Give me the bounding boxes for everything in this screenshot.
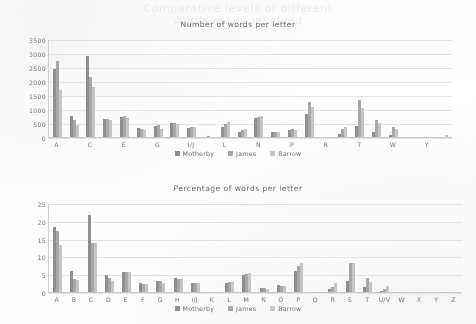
x-axis-tick-label: R xyxy=(324,296,341,303)
bar-group-i-j xyxy=(187,204,204,293)
bar-group-q xyxy=(307,204,324,293)
legend-item-motherby[interactable]: Motherby xyxy=(175,150,215,157)
bar-group-b xyxy=(66,204,83,293)
x-axis-tick-label: I/J xyxy=(183,141,200,148)
legend-item-barrow[interactable]: Barrow xyxy=(270,305,301,312)
bar-barrow-s xyxy=(352,263,355,293)
bar-group-r xyxy=(318,40,335,138)
bar-barrow-d xyxy=(109,120,112,138)
bar-group-w xyxy=(385,40,402,138)
y-axis-tick-label: 20 xyxy=(38,218,46,225)
x-axis-tick-label xyxy=(267,141,284,148)
bar-barrow-h xyxy=(176,124,179,138)
bar-group-n xyxy=(251,40,268,138)
bar-group-z xyxy=(445,204,462,293)
legend-item-motherby[interactable]: Motherby xyxy=(175,305,215,312)
x-axis-tick-label: L xyxy=(221,296,238,303)
bar-group-a xyxy=(49,204,66,293)
bar-barrow-e xyxy=(126,118,129,138)
bar-group-e xyxy=(116,40,133,138)
x-axis-tick-label: O xyxy=(272,296,289,303)
bar-barrow-c xyxy=(94,243,97,293)
bar-group-d xyxy=(99,40,116,138)
bar-group-p xyxy=(284,40,301,138)
bar-group-f xyxy=(133,40,150,138)
bar-group-h xyxy=(169,204,186,293)
x-axis-tick-label: G xyxy=(152,296,169,303)
x-axis-tick-label xyxy=(300,141,317,148)
scanned-page: Comparative levels of different words re… xyxy=(0,0,476,324)
legend-item-james[interactable]: James xyxy=(228,305,256,312)
x-axis-tick-label: W xyxy=(385,141,402,148)
bar-group-z xyxy=(435,40,452,138)
chart-legend: MotherbyJamesBarrow xyxy=(0,150,476,157)
chart-number-of-words-per-letter: Number of words per letter 0500100015002… xyxy=(0,20,476,160)
x-axis-tick-label xyxy=(368,141,385,148)
x-axis-tick-label: A xyxy=(48,141,65,148)
x-axis-tick-label: X xyxy=(410,296,427,303)
legend-swatch-icon xyxy=(270,151,275,156)
bar-group-s xyxy=(335,40,352,138)
x-axis-tick-label xyxy=(166,141,183,148)
bar-group-g xyxy=(152,204,169,293)
bar-barrow-a xyxy=(59,245,62,293)
x-axis-tick-label: D xyxy=(100,296,117,303)
y-axis-tick-label: 3000 xyxy=(29,51,46,58)
bar-series-container xyxy=(49,204,462,293)
page-ghost-text-1: Comparative levels of different xyxy=(0,2,476,15)
plot-area: 0510152025 xyxy=(48,204,462,293)
bar-barrow-m xyxy=(248,273,251,293)
bar-group-r xyxy=(324,204,341,293)
x-axis-tick-label xyxy=(401,141,418,148)
legend-swatch-icon xyxy=(175,306,180,311)
x-axis-labels: ACEGI/JLNPRTWY xyxy=(48,141,452,148)
x-axis-tick-label: Y xyxy=(418,141,435,148)
y-axis-tick-label: 3500 xyxy=(29,37,46,44)
x-axis-tick-label xyxy=(334,141,351,148)
bar-barrow-h xyxy=(180,279,183,293)
gridline xyxy=(49,138,452,139)
x-axis-tick-label xyxy=(233,141,250,148)
chart-legend: MotherbyJamesBarrow xyxy=(0,305,476,312)
x-axis-tick-label: F xyxy=(134,296,151,303)
bar-barrow-u-v xyxy=(378,123,381,138)
y-axis-tick-label: 15 xyxy=(38,236,46,243)
bar-barrow-t xyxy=(361,108,364,138)
plot-area: 0500100015002000250030003500 xyxy=(48,40,452,138)
x-axis-tick-label: Q xyxy=(307,296,324,303)
legend-label: Barrow xyxy=(278,305,301,312)
bar-group-q xyxy=(301,40,318,138)
x-axis-tick-label: P xyxy=(290,296,307,303)
x-axis-tick-label: G xyxy=(149,141,166,148)
legend-item-barrow[interactable]: Barrow xyxy=(270,150,301,157)
bar-group-l xyxy=(221,204,238,293)
x-axis-tick-label xyxy=(98,141,115,148)
bar-barrow-c xyxy=(92,87,95,138)
x-axis-tick-label: N xyxy=(250,141,267,148)
bar-group-s xyxy=(341,204,358,293)
legend-swatch-icon xyxy=(228,151,233,156)
y-axis-tick-label: 1000 xyxy=(29,107,46,114)
bar-group-g xyxy=(150,40,167,138)
x-axis-tick-label: E xyxy=(115,141,132,148)
x-axis-tick-label xyxy=(435,141,452,148)
bar-group-u-v xyxy=(368,40,385,138)
chart-title: Percentage of words per letter xyxy=(0,184,476,193)
bar-group-p xyxy=(290,204,307,293)
x-axis-labels: ABCDEFGHI/JKLMNOPQRSTU/VWXYZ xyxy=(48,296,462,303)
x-axis-tick-label xyxy=(132,141,149,148)
x-axis-tick-label: A xyxy=(48,296,65,303)
bar-group-n xyxy=(255,204,272,293)
bar-series-container xyxy=(49,40,452,138)
x-axis-tick-label xyxy=(65,141,82,148)
bar-barrow-l xyxy=(227,122,230,138)
bar-barrow-a xyxy=(59,90,62,138)
legend-item-james[interactable]: James xyxy=(228,150,256,157)
bar-group-x xyxy=(410,204,427,293)
bar-barrow-q xyxy=(311,107,314,138)
x-axis-tick-label: T xyxy=(359,296,376,303)
bar-group-k xyxy=(200,40,217,138)
x-axis-tick-label: Y xyxy=(428,296,445,303)
y-axis-tick-label: 1500 xyxy=(29,93,46,100)
axis-baseline xyxy=(49,137,452,138)
